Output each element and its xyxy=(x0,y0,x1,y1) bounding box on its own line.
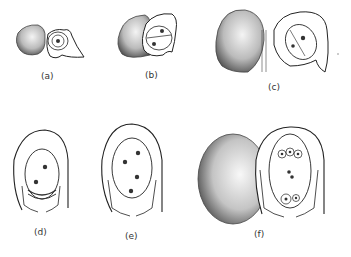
nucleus xyxy=(152,42,156,46)
panel-a xyxy=(16,25,84,58)
panel-f xyxy=(198,127,324,224)
panel-e xyxy=(102,124,162,216)
ovule-section-c xyxy=(274,12,328,72)
nucleus xyxy=(123,160,127,164)
ovule-diagram xyxy=(0,0,351,257)
nucleus xyxy=(301,36,305,40)
nucleus xyxy=(291,44,295,48)
embryo-sac xyxy=(112,138,152,198)
panel-b xyxy=(118,14,177,58)
panel-d xyxy=(14,130,68,212)
nucleus xyxy=(160,29,164,33)
nucleus xyxy=(129,189,133,193)
label-f: (f) xyxy=(254,229,264,239)
nucleus xyxy=(43,165,47,169)
polar-nucleus xyxy=(290,175,294,179)
nucleus xyxy=(56,39,60,43)
nucleus xyxy=(135,175,139,179)
nucleus xyxy=(136,151,140,155)
label-a: (a) xyxy=(41,71,54,81)
ovule-exterior-c xyxy=(216,10,264,72)
ovule-exterior-a xyxy=(16,25,45,55)
nucleus xyxy=(34,180,38,184)
label-e: (e) xyxy=(125,231,138,241)
polar-nucleus xyxy=(287,170,291,174)
panel-c xyxy=(216,10,339,72)
label-d: (d) xyxy=(34,227,47,237)
label-c: (c) xyxy=(268,82,280,92)
label-b: (b) xyxy=(145,70,158,80)
